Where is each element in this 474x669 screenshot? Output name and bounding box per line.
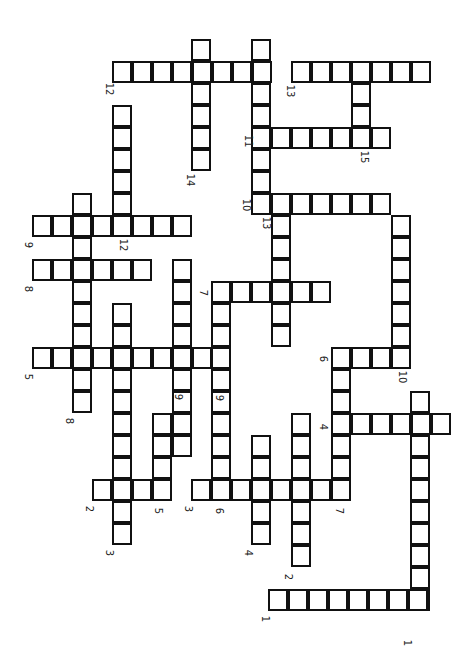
crossword-cell[interactable] [212,61,232,83]
crossword-cell[interactable] [371,127,391,149]
crossword-cell[interactable] [291,545,311,567]
crossword-cell[interactable] [271,303,291,325]
crossword-cell[interactable] [351,83,371,105]
crossword-cell[interactable] [172,61,192,83]
crossword-cell[interactable] [191,479,211,501]
crossword-cell[interactable] [308,589,328,611]
crossword-cell[interactable] [311,281,331,303]
crossword-cell[interactable] [251,193,271,215]
crossword-cell[interactable] [391,215,411,237]
crossword-cell[interactable] [112,303,132,325]
crossword-cell[interactable] [331,61,351,83]
crossword-cell[interactable] [112,149,132,171]
crossword-cell[interactable] [132,61,152,83]
crossword-cell[interactable] [331,369,351,391]
crossword-cell[interactable] [92,259,112,281]
crossword-cell[interactable] [232,61,252,83]
crossword-cell[interactable] [52,215,72,237]
crossword-cell[interactable] [391,303,411,325]
crossword-cell[interactable] [152,457,172,479]
crossword-cell[interactable] [271,479,291,501]
crossword-cell[interactable] [32,347,52,369]
crossword-cell[interactable] [371,193,391,215]
crossword-cell[interactable] [331,391,351,413]
crossword-cell[interactable] [112,105,132,127]
crossword-cell[interactable] [72,347,92,369]
crossword-cell[interactable] [211,347,231,369]
crossword-cell[interactable] [231,281,251,303]
crossword-cell[interactable] [92,347,112,369]
crossword-cell[interactable] [331,193,351,215]
crossword-cell[interactable] [410,479,430,501]
crossword-cell[interactable] [351,61,371,83]
crossword-cell[interactable] [132,347,152,369]
crossword-cell[interactable] [72,303,92,325]
crossword-cell[interactable] [331,435,351,457]
crossword-cell[interactable] [112,501,132,523]
crossword-cell[interactable] [112,171,132,193]
crossword-cell[interactable] [92,479,112,501]
crossword-cell[interactable] [152,347,172,369]
crossword-cell[interactable] [191,127,211,149]
crossword-cell[interactable] [371,347,391,369]
crossword-cell[interactable] [311,193,331,215]
crossword-cell[interactable] [410,391,430,413]
crossword-cell[interactable] [291,413,311,435]
crossword-cell[interactable] [251,83,271,105]
crossword-cell[interactable] [411,61,431,83]
crossword-cell[interactable] [351,413,371,435]
crossword-cell[interactable] [132,479,152,501]
crossword-cell[interactable] [211,435,231,457]
crossword-cell[interactable] [431,413,451,435]
crossword-cell[interactable] [251,435,271,457]
crossword-cell[interactable] [410,523,430,545]
crossword-cell[interactable] [211,413,231,435]
crossword-cell[interactable] [172,215,192,237]
crossword-cell[interactable] [291,501,311,523]
crossword-cell[interactable] [251,501,271,523]
crossword-cell[interactable] [72,369,92,391]
crossword-cell[interactable] [152,435,172,457]
crossword-cell[interactable] [391,237,411,259]
crossword-cell[interactable] [251,523,271,545]
crossword-cell[interactable] [132,215,152,237]
crossword-cell[interactable] [172,303,192,325]
crossword-cell[interactable] [152,413,172,435]
crossword-cell[interactable] [291,127,311,149]
crossword-cell[interactable] [112,523,132,545]
crossword-cell[interactable] [291,435,311,457]
crossword-cell[interactable] [52,259,72,281]
crossword-cell[interactable] [388,589,408,611]
crossword-cell[interactable] [112,193,132,215]
crossword-cell[interactable] [291,457,311,479]
crossword-cell[interactable] [348,589,368,611]
crossword-cell[interactable] [112,325,132,347]
crossword-cell[interactable] [191,149,211,171]
crossword-cell[interactable] [251,171,271,193]
crossword-cell[interactable] [391,61,411,83]
crossword-cell[interactable] [251,39,271,61]
crossword-cell[interactable] [152,479,172,501]
crossword-cell[interactable] [271,237,291,259]
crossword-cell[interactable] [92,215,112,237]
crossword-cell[interactable] [351,105,371,127]
crossword-cell[interactable] [391,281,411,303]
crossword-cell[interactable] [288,589,308,611]
crossword-cell[interactable] [368,589,388,611]
crossword-cell[interactable] [271,127,291,149]
crossword-cell[interactable] [331,347,351,369]
crossword-cell[interactable] [251,281,271,303]
crossword-cell[interactable] [112,435,132,457]
crossword-cell[interactable] [152,215,172,237]
crossword-cell[interactable] [32,215,52,237]
crossword-cell[interactable] [191,83,211,105]
crossword-cell[interactable] [271,215,291,237]
crossword-cell[interactable] [351,127,371,149]
crossword-cell[interactable] [331,479,351,501]
crossword-cell[interactable] [410,545,430,567]
crossword-cell[interactable] [251,105,271,127]
crossword-cell[interactable] [172,435,192,457]
crossword-cell[interactable] [211,457,231,479]
crossword-cell[interactable] [132,259,152,281]
crossword-cell[interactable] [252,61,272,83]
